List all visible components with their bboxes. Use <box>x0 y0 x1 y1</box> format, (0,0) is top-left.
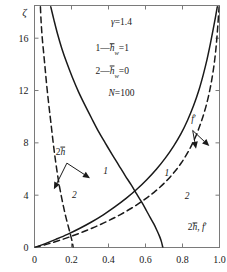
x-tick-label-5: 1.0 <box>213 254 226 265</box>
curve-label-2h-bar-hw0: 2 <box>72 190 77 200</box>
curve-label-2h-bar-hw1: 1 <box>103 166 108 176</box>
x-tick-label-4: 0.8 <box>176 254 189 265</box>
y-tick-label-3: 12 <box>19 85 29 96</box>
annotation-6: 2h, f′ <box>188 222 207 232</box>
curve-label-fprime-hw0: 2 <box>185 191 190 201</box>
figure-container: 00.20.40.60.81.0 0481216 1212 γ=1.41—hw=… <box>0 0 227 272</box>
x-tick-label-3: 0.6 <box>139 254 152 265</box>
annotation-0: γ=1.4 <box>111 17 132 27</box>
annotation-5: f′ <box>191 114 196 124</box>
x-tick-label-1: 0.2 <box>65 254 78 265</box>
x-tick-label-0: 0 <box>32 254 37 265</box>
y-tick-label-0: 0 <box>24 242 29 253</box>
curve-label-fprime-hw1: 1 <box>164 168 169 178</box>
chart-plot: 00.20.40.60.81.0 0481216 1212 γ=1.41—hw=… <box>0 0 227 272</box>
x-tick-label-2: 0.4 <box>102 254 115 265</box>
y-tick-label-2: 8 <box>24 137 29 148</box>
y-tick-label-4: 16 <box>19 33 29 44</box>
y-tick-label-1: 4 <box>24 190 29 201</box>
annotation-4: 2h <box>56 147 66 157</box>
annotation-3: N=100 <box>107 88 134 98</box>
